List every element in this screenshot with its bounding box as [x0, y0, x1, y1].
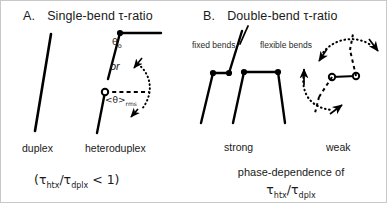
formula-sub-htx: htx [46, 181, 59, 190]
weak-label: weak [326, 142, 351, 153]
or-label: or [110, 61, 120, 72]
bend-joint-filled-icon [210, 70, 216, 76]
figure-panel-container: A. Single-bend τ-ratio B. Double-bend τ-… [0, 0, 387, 203]
caption-sub-htx: htx [274, 191, 287, 200]
formula-tail: < 1) [88, 172, 119, 187]
panel-b-caption-formula: τhtx/τdplx [266, 184, 315, 200]
duplex-label: duplex [22, 143, 53, 154]
bend-joint-filled-icon [226, 70, 232, 76]
theta-subscript: o [118, 42, 122, 50]
panel-b-letter: B. [203, 9, 215, 23]
bend-joint-filled-icon [275, 69, 281, 75]
theta-rms-symbol: <θ> [105, 95, 126, 105]
panel-a-letter: A. [23, 9, 35, 23]
dashed-arm-icon [350, 34, 353, 50]
caption-tau-htx: τ [266, 182, 274, 197]
panel-a-formula: (τhtx/τdplx < 1) [34, 174, 120, 190]
theta-rms-label: <θ>rms [105, 96, 137, 107]
heteroduplex-label: heteroduplex [85, 143, 146, 154]
panel-a-fluctuation-arc-icon [131, 58, 150, 117]
panel-a-title-text: Single-bend τ-ratio [47, 9, 153, 23]
panel-b-caption-line1: phase-dependence of [238, 167, 344, 178]
strong-label: strong [224, 142, 253, 153]
panel-b-title-text: Double-bend τ-ratio [227, 9, 337, 23]
panel-b-weak-structure [315, 34, 359, 113]
panel-b-title: B. Double-bend τ-ratio [203, 10, 338, 23]
bend-joint-filled-icon [241, 69, 247, 75]
formula-sub-dplx: dplx [71, 181, 88, 190]
fixed-bends-label: fixed bends [192, 41, 235, 50]
flexible-bends-label: flexible bends [260, 41, 312, 50]
panel-a-duplex-rod [35, 34, 51, 131]
theta-rms-subscript: rms [126, 100, 137, 107]
formula-tau-dplx: τ [64, 172, 72, 187]
panel-a-title: A. Single-bend τ-ratio [23, 10, 153, 23]
theta-zero-label: θo [112, 37, 122, 49]
caption-sub-dplx: dplx [299, 191, 316, 200]
